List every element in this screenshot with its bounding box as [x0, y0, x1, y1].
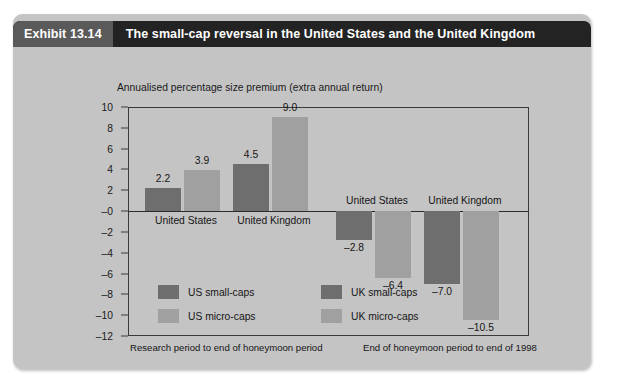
bar-uk-micro-caps: [272, 117, 308, 211]
legend-item: US micro-caps: [158, 309, 256, 323]
y-axis-tick-mark: [121, 273, 128, 274]
y-axis-tick-label: 6: [81, 143, 113, 154]
bar-us-micro-caps: [184, 170, 220, 211]
y-axis-tick-mark: [121, 148, 128, 149]
bar-us-small-caps: [336, 211, 372, 240]
y-axis-tick-mark: [121, 231, 128, 232]
legend-swatch-icon: [321, 285, 342, 299]
bar-uk-small-caps: [424, 211, 460, 284]
group-label: United Kingdom: [214, 215, 334, 226]
y-axis-tick-label: –2: [81, 226, 113, 237]
period-caption: End of honeymoon period to end of 1998: [363, 342, 537, 353]
legend-swatch-icon: [158, 285, 179, 299]
legend-item: UK small-caps: [321, 285, 417, 299]
legend-label: UK micro-caps: [351, 311, 419, 322]
bar-uk-micro-caps: [463, 211, 499, 320]
y-axis-tick-mark: [121, 169, 128, 170]
bar-uk-small-caps: [233, 164, 269, 211]
legend-label: US small-caps: [188, 287, 254, 298]
legend-swatch-icon: [158, 309, 179, 323]
chart-subtitle: Annualised percentage size premium (extr…: [117, 82, 383, 93]
exhibit-title: The small-cap reversal in the United Sta…: [113, 27, 535, 41]
exhibit-number: Exhibit 13.14: [13, 21, 113, 47]
exhibit-card: Exhibit 13.14 The small-cap reversal in …: [13, 14, 591, 369]
y-axis-tick-label: –4: [81, 247, 113, 258]
y-axis-tick-mark: [121, 127, 128, 128]
y-axis-tick-mark: [121, 211, 128, 212]
legend-item: US small-caps: [158, 285, 254, 299]
y-axis-tick-mark: [121, 190, 128, 191]
legend-label: UK small-caps: [351, 287, 417, 298]
y-axis-tick-mark: [121, 336, 128, 337]
bar-us-micro-caps: [375, 211, 411, 278]
y-axis-tick-mark: [121, 252, 128, 253]
y-axis-tick-label: –0: [81, 206, 113, 217]
bar-value-label: –10.5: [449, 322, 513, 333]
y-axis-tick-label: –10: [81, 310, 113, 321]
chart-figure: Annualised percentage size premium (extr…: [13, 47, 591, 369]
legend-item: UK micro-caps: [321, 309, 419, 323]
group-label: United Kingdom: [405, 195, 525, 206]
y-axis-tick-mark: [121, 315, 128, 316]
chart-legend: US small-capsUK small-capsUS micro-capsU…: [158, 285, 458, 329]
legend-label: US micro-caps: [188, 311, 256, 322]
y-axis-tick-label: –8: [81, 289, 113, 300]
y-axis-tick-mark: [121, 107, 128, 108]
bar-us-small-caps: [145, 188, 181, 211]
y-axis: 108642–0–2–4–6–8–10–12: [13, 47, 128, 369]
y-axis-tick-label: 2: [81, 185, 113, 196]
y-axis-tick-label: –12: [81, 331, 113, 342]
y-axis-tick-label: 8: [81, 122, 113, 133]
y-axis-tick-label: –6: [81, 268, 113, 279]
period-caption: Research period to end of honeymoon peri…: [130, 342, 323, 353]
y-axis-tick-label: 4: [81, 164, 113, 175]
exhibit-header: Exhibit 13.14 The small-cap reversal in …: [13, 21, 591, 47]
legend-swatch-icon: [321, 309, 342, 323]
y-axis-tick-label: 10: [81, 102, 113, 113]
bar-value-label: 9.0: [258, 102, 322, 113]
y-axis-tick-mark: [121, 294, 128, 295]
